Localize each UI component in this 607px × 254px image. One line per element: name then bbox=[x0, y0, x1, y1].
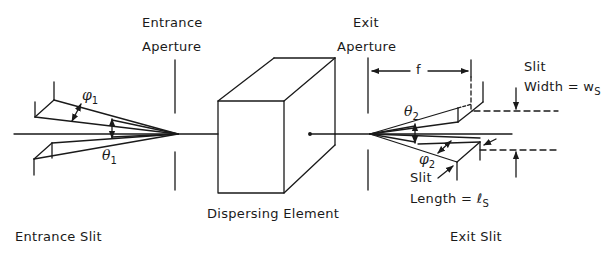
slit-width-indicator bbox=[474, 88, 558, 177]
slit-width-label-line2: Width = wS bbox=[524, 80, 601, 97]
focal-length-indicator bbox=[372, 60, 471, 111]
slit-width-label-line1: Slit bbox=[524, 60, 546, 73]
phi1-symbol: φ1 bbox=[82, 88, 98, 106]
theta2-symbol: θ2 bbox=[404, 104, 419, 122]
entrance-slit bbox=[34, 82, 54, 175]
slit-edge-pointer bbox=[484, 139, 496, 145]
entrance-aperture-label-line2: Aperture bbox=[142, 40, 201, 53]
focal-length-label: f bbox=[416, 63, 421, 76]
slit-length-label-line1: Slit bbox=[410, 171, 432, 184]
dispersing-element bbox=[218, 58, 335, 193]
exit-aperture-label-line2: Aperture bbox=[337, 40, 396, 53]
slit-length-label-line2: Length = ℓS bbox=[410, 192, 489, 209]
exit-aperture-label-line1: Exit bbox=[353, 16, 379, 29]
entrance-slit-label: Entrance Slit bbox=[15, 230, 102, 243]
dispersing-element-label: Dispersing Element bbox=[207, 207, 339, 220]
phi2-symbol: φ2 bbox=[419, 152, 435, 170]
slit-length-pointer bbox=[438, 166, 453, 178]
optical-axis bbox=[14, 133, 512, 136]
exit-slit-label: Exit Slit bbox=[450, 230, 502, 243]
theta1-symbol: θ1 bbox=[102, 148, 117, 166]
entrance-aperture-label-line1: Entrance bbox=[142, 16, 203, 29]
